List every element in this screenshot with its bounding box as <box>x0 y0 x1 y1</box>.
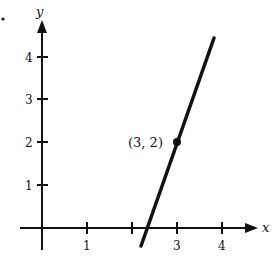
x-axis-label: x <box>262 220 270 235</box>
y-tick-label: 2 <box>25 136 33 150</box>
data-point <box>173 138 181 146</box>
y-tick-label: 1 <box>25 179 33 193</box>
y-axis: 4 3 2 1 y <box>25 4 48 250</box>
chart-canvas: 4 3 2 1 y 1 3 4 x (3, 2) <box>0 0 280 274</box>
point-annotation: (3, 2) <box>128 135 163 150</box>
stray-dot <box>1 17 4 20</box>
x-tick-label: 4 <box>218 239 226 253</box>
x-axis-arrow-icon <box>245 223 258 233</box>
x-tick-label: 1 <box>83 239 91 253</box>
y-tick-label: 4 <box>25 51 33 65</box>
y-axis-label: y <box>35 4 44 19</box>
y-axis-arrow-icon <box>37 20 47 33</box>
x-tick-label: 3 <box>173 239 181 253</box>
y-tick-label: 3 <box>25 93 33 107</box>
